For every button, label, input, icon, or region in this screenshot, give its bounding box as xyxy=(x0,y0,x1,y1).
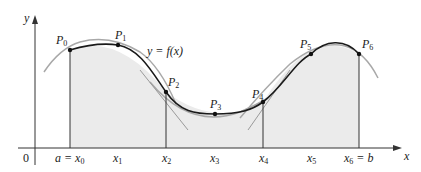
label-p2: P2 xyxy=(168,76,179,90)
x-axis-arrow-icon xyxy=(393,145,402,151)
label-p3: P3 xyxy=(210,98,221,112)
tick-label-x4: x4 xyxy=(259,152,268,166)
label-p5: P5 xyxy=(300,38,311,52)
tick-label-x2: x2 xyxy=(162,152,171,166)
tick-label-x5: x5 xyxy=(307,152,316,166)
point-p6 xyxy=(357,52,361,56)
label-p6: P6 xyxy=(362,38,373,52)
origin-label: 0 xyxy=(23,152,29,164)
label-p0: P0 xyxy=(56,34,67,48)
point-p1 xyxy=(116,43,120,47)
tick-label-x0: a = x0 xyxy=(55,152,84,166)
tick-label-x1: x1 xyxy=(113,152,122,166)
point-p0 xyxy=(68,48,72,52)
point-p5 xyxy=(309,52,313,56)
x-axis-label: x xyxy=(404,150,409,162)
tick-label-x3: x3 xyxy=(210,152,219,166)
diagram-svg xyxy=(0,0,421,172)
simpsons-rule-diagram: y x 0 y = f(x) P0 P1 P2 P3 P4 P5 P6 a = … xyxy=(0,0,421,172)
point-p3 xyxy=(213,112,217,116)
y-axis-arrow-icon xyxy=(32,15,38,24)
tick-label-x6: x6 = b xyxy=(344,152,373,166)
label-p4: P4 xyxy=(252,88,263,102)
y-axis-label: y xyxy=(24,12,29,24)
curve-label: y = f(x) xyxy=(147,45,183,57)
point-p2 xyxy=(164,90,168,94)
label-p1: P1 xyxy=(115,29,126,43)
